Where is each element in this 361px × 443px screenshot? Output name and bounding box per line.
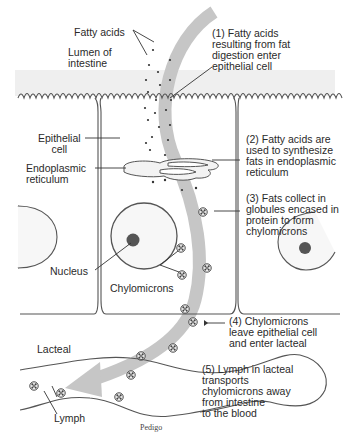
step-5-text: (5) Lymph in lacteal transports chylomic… xyxy=(202,364,293,419)
label-lumen: Lumen of intestine xyxy=(68,47,112,69)
process-arrow-head xyxy=(65,362,102,397)
step-4-text: (4) Chylomicrons leave epithelial cell a… xyxy=(229,316,317,349)
label-chylomicrons: Chylomicrons xyxy=(110,283,174,294)
endoplasmic-reticulum xyxy=(124,159,218,180)
nucleus-left xyxy=(18,206,57,268)
step-1-text: (1) Fatty acids resulting from fat diges… xyxy=(212,28,290,72)
artist-signature: Pedigo xyxy=(140,423,162,432)
label-endoplasmic-reticulum: Endoplasmic reticulum xyxy=(26,163,86,185)
label-nucleus: Nucleus xyxy=(50,266,88,277)
label-fatty-acids: Fatty acids xyxy=(74,27,125,38)
label-lacteal: Lacteal xyxy=(37,344,71,355)
label-epithelial-cell: Epithelial cell xyxy=(38,133,81,155)
step-3-text: (3) Fats collect in globules encased in … xyxy=(246,193,339,237)
step-2-text: (2) Fatty acids are used to synthesize f… xyxy=(246,134,336,178)
label-lymph: Lymph xyxy=(54,413,85,424)
